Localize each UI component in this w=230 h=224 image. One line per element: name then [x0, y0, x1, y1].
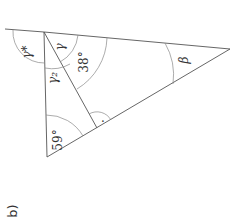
triangle-diagram: γ* γ γ₂ 38° 59° · β b): [0, 0, 230, 224]
right-angle-dot: ·: [101, 115, 105, 129]
side-left: [44, 32, 47, 157]
gamma-2-arc: [45, 64, 70, 69]
gamma-2-label: γ₂: [46, 72, 60, 84]
side-bottom: [47, 49, 230, 157]
angle-38-label: 38°: [77, 51, 91, 72]
gamma-label: γ: [53, 43, 67, 51]
part-label: b): [5, 204, 20, 217]
angle-59-label: 59°: [51, 129, 65, 150]
extension-line: [5, 29, 44, 32]
side-top: [44, 32, 230, 49]
beta-label: β: [177, 56, 191, 64]
beta-arc: [165, 43, 174, 84]
gamma-star-label: γ*: [20, 45, 34, 58]
